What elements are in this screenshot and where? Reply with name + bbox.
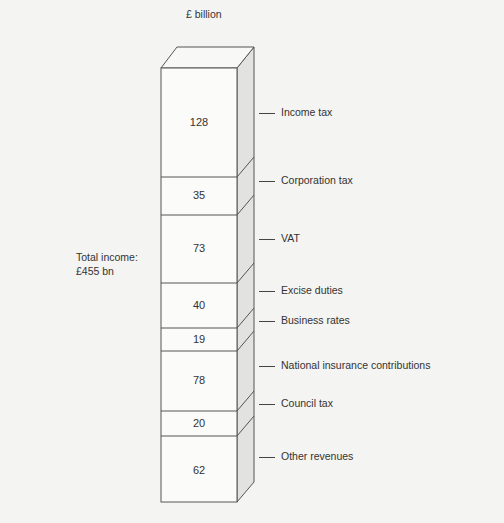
- leader-line: [259, 457, 275, 458]
- segment-label: National insurance contributions: [281, 359, 430, 371]
- leader-line: [259, 321, 275, 322]
- leader-line: [259, 291, 275, 292]
- leader-line: [259, 239, 275, 240]
- segment-value: 62: [161, 464, 237, 476]
- leader-line: [259, 113, 275, 114]
- segment-value: 20: [161, 417, 237, 429]
- segment-label: Council tax: [281, 397, 333, 409]
- leader-line: [259, 404, 275, 405]
- segment-label: Corporation tax: [281, 174, 353, 186]
- segment-label: Income tax: [281, 106, 332, 118]
- segment-label: VAT: [281, 232, 300, 244]
- segment-value: 40: [161, 299, 237, 311]
- segment-label: Excise duties: [281, 284, 343, 296]
- segment-value: 19: [161, 333, 237, 345]
- unit-label: £ billion: [186, 8, 222, 20]
- segment-label: Business rates: [281, 314, 350, 326]
- leader-line: [259, 366, 275, 367]
- total-line1: Total income:: [76, 250, 138, 264]
- total-line2: £455 bn: [76, 264, 138, 278]
- total-annotation: Total income: £455 bn: [76, 250, 138, 278]
- segment-label: Other revenues: [281, 450, 353, 462]
- segment-value: 73: [161, 242, 237, 254]
- segment-value: 128: [161, 116, 237, 128]
- leader-line: [259, 181, 275, 182]
- segment-value: 35: [161, 189, 237, 201]
- segment-value: 78: [161, 374, 237, 386]
